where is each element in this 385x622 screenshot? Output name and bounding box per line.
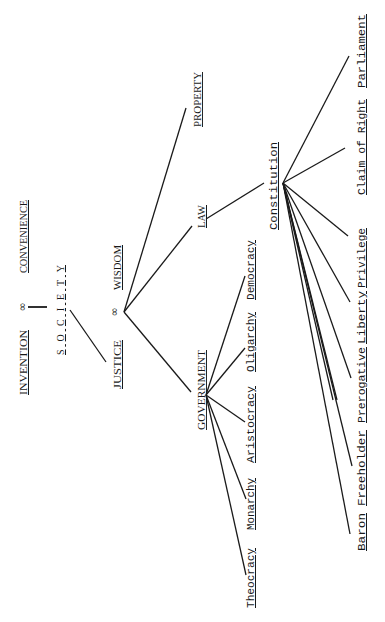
- edge-justice-to-property: [124, 108, 186, 312]
- edge-constitution-to-baron: [283, 183, 350, 534]
- concept-tree-diagram: INVENTION ∞ CONVENIENCE S O C I E T Y JU…: [0, 0, 385, 622]
- node-parliament: Parliament: [357, 14, 368, 88]
- edge-law-to-constitution: [206, 183, 264, 219]
- node-claim-of-right: Claim of Right: [357, 99, 368, 195]
- node-freeholder: Freeholder: [357, 430, 368, 506]
- node-liberty: Liberty: [357, 291, 368, 344]
- edge-government-to-democracy: [206, 276, 245, 395]
- edge-constitution-to-prerogative: [283, 183, 351, 378]
- node-justice: JUSTICE: [112, 340, 123, 389]
- node-society: S O C I E T Y: [55, 265, 66, 355]
- edge-society-to-justice: [70, 310, 106, 362]
- node-wisdom: WISDOM: [112, 245, 123, 290]
- edges: [28, 56, 352, 575]
- node-constitution: Constitution: [269, 142, 280, 230]
- infinity-icon: ∞: [108, 307, 121, 316]
- infinity-icon: ∞: [16, 302, 29, 311]
- node-monarchy: Monarchy: [246, 478, 257, 530]
- node-convenience: CONVENIENCE: [18, 200, 29, 273]
- node-baron: Baron: [357, 513, 368, 551]
- node-democracy: Democracy: [246, 240, 257, 300]
- edge-constitution-to-liberty: [283, 183, 350, 302]
- node-property: PROPERTY: [193, 72, 203, 127]
- node-oligarchy: Oligarchy: [246, 312, 257, 372]
- edge-justice-to-government: [124, 312, 191, 392]
- edge-constitution-extra-2: [283, 183, 333, 400]
- node-privilege: Privilege: [357, 228, 368, 288]
- node-prerogative: Prerogative: [357, 347, 368, 423]
- edge-government-to-oligarchy: [206, 348, 245, 395]
- node-law: LAW: [196, 204, 207, 228]
- node-government: GOVERNMENT: [197, 350, 207, 430]
- node-theocracy: Theocracy: [246, 548, 257, 608]
- node-invention: INVENTION: [18, 330, 29, 395]
- node-aristocracy: Aristocracy: [246, 386, 257, 463]
- edge-justice-to-law: [124, 226, 192, 312]
